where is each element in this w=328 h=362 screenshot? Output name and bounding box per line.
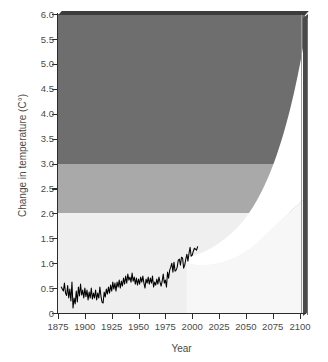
y-tick-label: 2.0 [41, 209, 54, 219]
plot-svg [58, 14, 305, 313]
y-tick-label: 1.0 [41, 259, 54, 269]
x-tick [219, 313, 220, 319]
y-tick-label: 6.0 [41, 10, 54, 20]
y-tick-label: 0 [49, 309, 54, 319]
y-tick-label: 3.0 [41, 159, 54, 169]
y-tick-label: 3.5 [41, 134, 54, 144]
observed-temperature-line [61, 247, 197, 308]
y-tick-label: 5.5 [41, 35, 54, 45]
x-tick [165, 313, 166, 319]
x-tick [273, 313, 274, 319]
chart-top-3d-edge [58, 11, 309, 15]
x-tick [192, 313, 193, 319]
y-tick-label: 4.0 [41, 109, 54, 119]
y-tick-label: 5.0 [41, 59, 54, 69]
x-tick [300, 313, 301, 319]
y-tick-label: 0.5 [41, 284, 54, 294]
x-tick [58, 313, 59, 319]
x-tick [139, 313, 140, 319]
x-axis-line [57, 313, 306, 314]
y-tick-label: 4.5 [41, 84, 54, 94]
x-tick [246, 313, 247, 319]
plot-area [58, 14, 305, 313]
chart-right-inner-line [301, 15, 302, 314]
x-tick-label: 2100 [280, 322, 320, 332]
x-axis-title: Year [58, 343, 305, 354]
y-tick-label: 2.5 [41, 184, 54, 194]
temperature-projection-chart: 0 0.5 1.0 1.5 2.0 2.5 3.0 3.5 4.0 4.5 5.… [0, 0, 328, 362]
x-tick [85, 313, 86, 319]
y-axis-title: Change in temperature (C°) [17, 66, 28, 246]
chart-right-outer-line [307, 18, 308, 315]
x-tick [112, 313, 113, 319]
y-tick-label: 1.5 [41, 234, 54, 244]
